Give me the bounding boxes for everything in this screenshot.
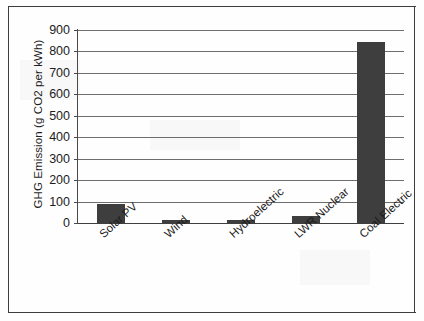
y-tick-label: 0 [63,217,70,230]
ghg-emission-bar-chart: GHG Emission (g CO2 per kWh) 90080070060… [0,0,424,321]
y-tick-label: 100 [49,195,70,208]
y-tick-label: 300 [49,152,70,165]
gridline [78,73,404,74]
gridline [78,159,404,160]
y-tick-mark [74,30,78,31]
y-tick-label: 200 [49,174,70,187]
y-tick-mark [74,202,78,203]
y-tick-label: 500 [49,110,70,123]
y-tick-mark [74,159,78,160]
y-tick-mark [74,94,78,95]
y-tick-mark [74,73,78,74]
gridline [78,51,404,52]
gridline [78,116,404,117]
y-tick-label: 400 [49,131,70,144]
y-tick-mark [74,116,78,117]
gridline [78,30,404,31]
y-tick-label: 700 [49,67,70,80]
y-tick-label: 800 [49,45,70,58]
bar [357,42,385,223]
figure-frame: GHG Emission (g CO2 per kWh) 90080070060… [0,0,424,321]
y-tick-mark [74,223,78,224]
y-tick-label: 600 [49,88,70,101]
y-tick-label: 900 [49,24,70,37]
y-tick-mark [74,137,78,138]
y-tick-mark [74,180,78,181]
gridline [78,180,404,181]
gridline [78,94,404,95]
gridline [78,137,404,138]
y-axis-title: GHG Emission (g CO2 per kWh) [32,24,44,224]
plot-area: 9008007006005004003002001000 [78,30,404,223]
y-tick-mark [74,51,78,52]
